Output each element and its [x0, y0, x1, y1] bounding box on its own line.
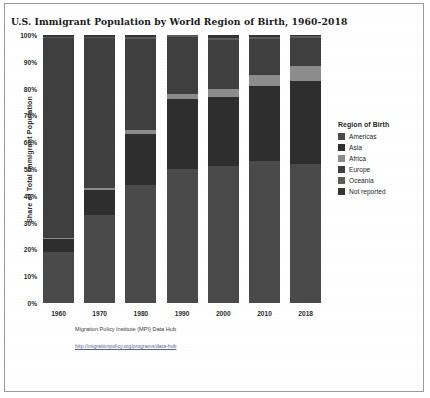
bar-segment-asia: [43, 239, 74, 252]
legend-item-asia[interactable]: Asia: [338, 142, 422, 153]
plot-inner: 100%90%80%70%60%50%40%30%20%10%0% 196019…: [41, 35, 328, 303]
legend-item-europe[interactable]: Europe: [338, 164, 422, 175]
bar-segment-americas: [290, 164, 321, 303]
x-axis-tick: 1980: [121, 310, 161, 317]
legend-item-label: Africa: [349, 155, 366, 162]
bar-segment-asia: [290, 81, 321, 164]
legend-swatch-icon: [338, 166, 345, 173]
bar-segment-americas: [84, 215, 115, 303]
page-frame: U.S. Immigrant Population by World Regio…: [4, 3, 424, 392]
bar-2010: [249, 35, 280, 303]
bar-segment-americas: [167, 169, 198, 303]
legend-title: Region of Birth: [338, 121, 422, 128]
y-axis-tick: 80%: [24, 85, 37, 92]
x-axis-tick: 1990: [162, 310, 202, 317]
legend-item-label: Asia: [349, 144, 362, 151]
source-text: Migration Policy Institute (MPI) Data Hu…: [75, 326, 176, 332]
legend-item-label: Europe: [349, 166, 370, 173]
y-axis-tick: 20%: [24, 246, 37, 253]
y-axis-tick: 70%: [24, 112, 37, 119]
legend-swatch-icon: [338, 133, 345, 140]
legend-item-label: Oceania: [349, 177, 374, 184]
legend-swatch-icon: [338, 144, 345, 151]
bar-segment-europe: [249, 39, 280, 75]
bar-segment-asia: [208, 97, 239, 167]
x-axis-tick: 1970: [80, 310, 120, 317]
y-axis-tick: 50%: [24, 166, 37, 173]
bar-segment-europe: [43, 38, 74, 238]
y-axis-tick: 30%: [24, 219, 37, 226]
y-axis-tick: 90%: [24, 58, 37, 65]
bar-segment-europe: [125, 39, 156, 130]
legend-swatch-icon: [338, 188, 345, 195]
legend-item-label: Not reported: [349, 188, 386, 195]
x-axis-tick: 2000: [203, 310, 243, 317]
y-axis-tick: 0%: [27, 300, 37, 307]
bar-segment-americas: [125, 185, 156, 303]
bar-segment-americas: [249, 161, 280, 303]
bar-segment-americas: [43, 252, 74, 303]
x-axis-tick: 1960: [39, 310, 79, 317]
legend: Region of Birth AmericasAsiaAfricaEurope…: [338, 121, 422, 197]
legend-item-not-reported[interactable]: Not reported: [338, 186, 422, 197]
x-axis-tick: 2018: [286, 310, 326, 317]
bar-2018: [290, 35, 321, 303]
bar-segment-asia: [167, 99, 198, 169]
legend-item-americas[interactable]: Americas: [338, 131, 422, 142]
x-axis-tick: 2010: [245, 310, 285, 317]
bar-1960: [43, 35, 74, 303]
y-axis-tick: 60%: [24, 139, 37, 146]
bar-segment-americas: [208, 166, 239, 303]
bar-1990: [167, 35, 198, 303]
bar-1970: [84, 35, 115, 303]
chart-title: U.S. Immigrant Population by World Regio…: [11, 16, 347, 27]
bar-segment-asia: [125, 134, 156, 185]
legend-item-label: Americas: [349, 133, 376, 140]
legend-item-oceania[interactable]: Oceania: [338, 175, 422, 186]
legend-swatch-icon: [338, 177, 345, 184]
y-axis-tick: 100%: [20, 32, 37, 39]
y-axis-tick: 10%: [24, 273, 37, 280]
chart-figure: U.S. Immigrant Population by World Regio…: [5, 4, 425, 393]
bar-segment-africa: [249, 75, 280, 86]
bar-segment-europe: [290, 38, 321, 66]
source-link[interactable]: http://migrationpolicy.org/programs/data…: [75, 343, 176, 349]
plot-area: 100%90%80%70%60%50%40%30%20%10%0% 196019…: [41, 32, 328, 303]
legend-swatch-icon: [338, 155, 345, 162]
bar-1980: [125, 35, 156, 303]
bar-segment-europe: [84, 38, 115, 188]
bar-segment-europe: [167, 37, 198, 95]
y-axis-title: Share of Total Immigrant Population: [26, 80, 33, 240]
source-note: Migration Policy Institute (MPI) Data Hu…: [75, 326, 176, 352]
bar-segment-africa: [208, 89, 239, 97]
bar-segment-asia: [84, 190, 115, 214]
legend-item-africa[interactable]: Africa: [338, 153, 422, 164]
y-axis-tick: 40%: [24, 192, 37, 199]
bar-2000: [208, 35, 239, 303]
bar-segment-europe: [208, 40, 239, 90]
legend-items: AmericasAsiaAfricaEuropeOceaniaNot repor…: [338, 131, 422, 197]
bar-segment-africa: [290, 66, 321, 81]
bar-segment-asia: [249, 86, 280, 161]
